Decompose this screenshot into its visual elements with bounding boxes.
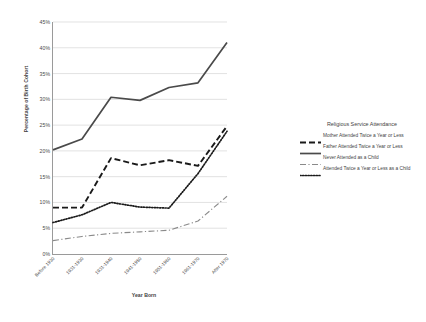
legend-entry: Never Attended as a Child (300, 154, 424, 161)
plot-area (52, 22, 227, 255)
y-tick-label: 35% (40, 71, 50, 77)
series-line (53, 126, 227, 207)
y-tick-label: 0% (43, 251, 51, 257)
legend-swatch (300, 154, 321, 161)
series-line (53, 43, 227, 150)
y-tick-label: 15% (40, 174, 50, 180)
legend-label: Attended Twice a Year or Less as a Child (323, 165, 410, 172)
legend-label: Mother Attended Twice a Year or Less (323, 132, 404, 139)
legend-entry: Mother Attended Twice a Year or Less (300, 132, 424, 139)
x-axis-tick-labels: Before 19301931-19301931-19401941-195019… (52, 256, 232, 306)
legend-label: Father Attended Twice a Year or Less (323, 143, 403, 150)
y-tick-label: 45% (40, 19, 50, 25)
legend-entry: Attended Twice a Year or Less as a Child (300, 165, 424, 172)
legend-swatch (300, 132, 321, 139)
y-tick-label: 40% (40, 45, 50, 51)
series-line (53, 196, 227, 240)
x-axis-title: Year Born (104, 292, 184, 298)
series-canvas (53, 22, 227, 254)
legend-entry: Father Attended Twice a Year or Less (300, 143, 424, 150)
legend-swatch (300, 165, 321, 172)
legend-label: Never Attended as a Child (323, 154, 379, 161)
y-tick-label: 20% (40, 148, 50, 154)
y-tick-label: 10% (40, 199, 50, 205)
y-tick-label: 30% (40, 96, 50, 102)
legend-title: Religious Service Attendance (300, 121, 424, 127)
legend-entries: Mother Attended Twice a Year or LessFath… (300, 132, 424, 173)
chart-figure: Percentage of Birth Cohort 0%5%10%15%20%… (0, 0, 426, 322)
y-tick-label: 5% (43, 225, 51, 231)
y-tick-label: 25% (40, 122, 50, 128)
legend: Religious Service Attendance Mother Atte… (300, 121, 424, 176)
legend-swatch (300, 143, 321, 150)
